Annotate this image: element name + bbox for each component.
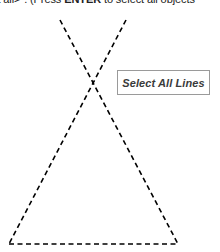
callout-label: Select All Lines <box>122 77 205 89</box>
right-slanted-line <box>9 20 126 244</box>
dashed-triangle-figure <box>0 0 220 252</box>
select-all-lines-callout: Select All Lines <box>117 70 210 95</box>
diagram-canvas: ct all>". (Press ENTER to select all obj… <box>0 0 220 252</box>
left-slanted-line <box>60 20 178 244</box>
